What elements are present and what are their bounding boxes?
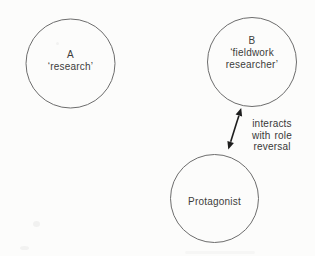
- scan-artifact: [185, 251, 255, 254]
- diagram-canvas: A ‘research’ B ‘fieldwork researcher’ Pr…: [0, 0, 315, 256]
- arrowhead-up-icon: [236, 108, 243, 117]
- circle-b-title: B: [207, 35, 297, 47]
- circle-b-subtitle: ‘fieldwork researcher’: [207, 47, 297, 71]
- circle-b-label: B ‘fieldwork researcher’: [207, 35, 297, 71]
- arrowhead-down-icon: [227, 141, 234, 150]
- circle-a-title: A: [26, 49, 115, 61]
- circle-a-label: A ‘research’: [26, 49, 115, 73]
- circle-protagonist-label: Protagonist: [170, 196, 259, 208]
- scan-artifact: [20, 246, 29, 250]
- scan-artifact: [56, 42, 59, 45]
- arrow-label: interacts with role reversal: [243, 118, 301, 153]
- circle-a-subtitle: ‘research’: [26, 61, 115, 73]
- interaction-arrow: [227, 108, 242, 150]
- scan-artifact: [33, 221, 40, 227]
